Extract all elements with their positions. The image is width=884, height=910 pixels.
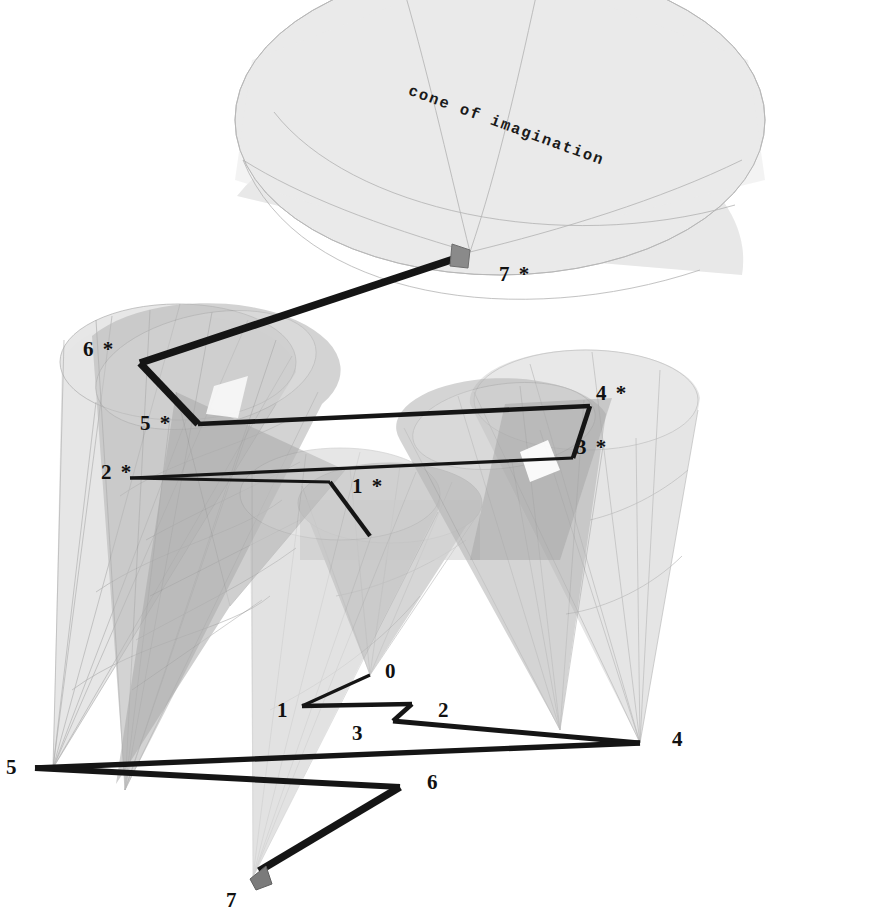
cone-diagram-svg: [0, 0, 884, 910]
label-6: 6: [427, 772, 439, 793]
label-1: 1: [277, 700, 289, 721]
cone-of-imagination: [235, 0, 765, 299]
label-7: 7: [226, 890, 238, 910]
label-3-star: 3 *: [576, 437, 608, 458]
label-5: 5: [6, 757, 18, 778]
label-4-star: 4 *: [596, 383, 628, 404]
label-7-star: 7 *: [499, 264, 531, 285]
segment-1-2: [302, 704, 412, 706]
label-6-star: 6 *: [83, 339, 115, 360]
segment-5-6: [35, 768, 400, 787]
label-5-star: 5 *: [140, 413, 172, 434]
label-1-star: 1 *: [352, 476, 384, 497]
label-2-star: 2 *: [101, 462, 133, 483]
figure-canvas: cone of imagination 0 1 2 3 4 5 6 7 1 * …: [0, 0, 884, 910]
segment-2-3: [393, 704, 412, 721]
segment-3-4: [393, 721, 640, 743]
label-2: 2: [438, 700, 450, 721]
label-3: 3: [352, 723, 364, 744]
label-4: 4: [672, 729, 684, 750]
label-0: 0: [385, 661, 397, 682]
cone-7: [240, 448, 440, 877]
